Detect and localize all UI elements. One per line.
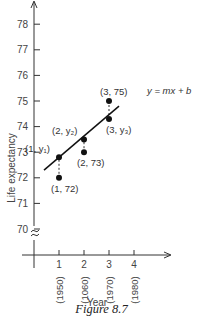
y-tick-label: 77	[17, 44, 29, 55]
y-tick-label: 78	[17, 19, 29, 30]
x-tick-label: 2	[81, 259, 87, 270]
point-label: (1, 72)	[51, 183, 78, 194]
y-tick-label: 76	[17, 70, 29, 81]
point-labels: (1, 72)(2, 73)(3, 75)(1, y₁)(2, y₂)(3, y…	[25, 86, 132, 194]
x-tick-sublabel: (1950)	[54, 276, 65, 303]
data-points	[56, 98, 112, 181]
x-tick-label: 1	[56, 259, 62, 270]
y-tick-label: 72	[17, 172, 29, 183]
data-point	[106, 98, 112, 104]
life-expectancy-chart: 707172737475767778 1(1950)2(1060)3(1970)…	[0, 0, 203, 324]
x-ticks	[59, 250, 134, 255]
figure-caption: Figure 8.7	[0, 302, 203, 317]
point-label: (2, y₂)	[52, 125, 77, 136]
y-axis-label: Life expectancy	[6, 133, 17, 203]
y-axis	[31, 1, 39, 268]
data-point	[81, 149, 87, 155]
y-tick-labels: 707172737475767778	[17, 19, 29, 235]
y-tick-label: 74	[17, 121, 29, 132]
x-tick-label: 3	[106, 259, 112, 270]
x-tick-label: 4	[131, 259, 137, 270]
y-tick-label: 75	[17, 96, 29, 107]
regression-line-label: y = mx + b	[146, 85, 191, 96]
y-ticks	[34, 24, 40, 229]
data-point	[106, 116, 112, 122]
x-axis	[22, 252, 171, 258]
y-tick-label: 71	[17, 198, 29, 209]
x-tick-sublabel: (1980)	[129, 276, 140, 303]
point-label: (1, y₁)	[25, 143, 50, 154]
point-label: (2, 73)	[77, 157, 104, 168]
y-tick-label: 70	[17, 224, 29, 235]
point-label: (3, y₃)	[106, 124, 132, 135]
point-label: (3, 75)	[100, 86, 127, 97]
data-point	[81, 136, 87, 142]
data-point	[56, 154, 62, 160]
data-point	[56, 175, 62, 181]
